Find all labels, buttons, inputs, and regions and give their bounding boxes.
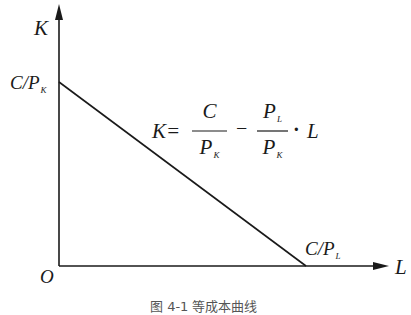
equation-lhs: K= xyxy=(152,119,180,144)
x-intercept-label: C/PL xyxy=(305,238,341,261)
equation-minus: − xyxy=(236,117,247,140)
frac2-den-sub: K xyxy=(276,150,282,160)
y-axis-arrow-icon xyxy=(55,4,63,20)
frac2-den-main: P xyxy=(263,135,276,159)
equation-times: · xyxy=(293,118,300,141)
x-intercept-main: C/P xyxy=(305,238,335,259)
frac1-den-main: P xyxy=(200,135,213,159)
x-intercept-sub: L xyxy=(336,251,341,261)
y-intercept-label: C/PK xyxy=(10,72,47,95)
x-axis-arrow-icon xyxy=(373,262,389,270)
frac2-num-sub: L xyxy=(277,114,282,124)
equation-variable: L xyxy=(307,119,319,144)
frac1-denominator: PK xyxy=(192,135,227,160)
figure-caption: 图 4-1 等成本曲线 xyxy=(150,296,258,315)
x-axis-label: L xyxy=(395,255,407,280)
frac2-numerator: PL xyxy=(257,99,288,124)
frac2-denominator: PK xyxy=(257,135,288,160)
y-intercept-sub: K xyxy=(41,85,47,95)
y-intercept-main: C/P xyxy=(10,72,40,93)
y-axis-label: K xyxy=(34,16,48,41)
frac1-numerator: C xyxy=(192,99,227,124)
frac1-den-sub: K xyxy=(213,150,219,160)
frac2-num-main: P xyxy=(263,99,276,123)
origin-label: O xyxy=(40,266,54,288)
